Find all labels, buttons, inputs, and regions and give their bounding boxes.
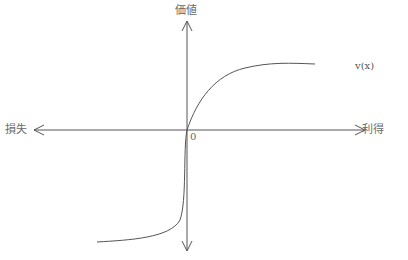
- diagram-svg: [0, 0, 408, 260]
- value-function-diagram: 価値 損失 利得 v(x) 0: [0, 0, 408, 260]
- curve-label: v(x): [355, 61, 374, 71]
- y-axis-label: 価値: [175, 5, 197, 16]
- x-axis-negative-label: 損失: [5, 124, 27, 135]
- gain-curve: [187, 63, 315, 130]
- x-axis-positive-label: 利得: [362, 124, 384, 135]
- loss-curve: [97, 130, 187, 242]
- origin-label: 0: [190, 132, 196, 142]
- x-axis: [34, 125, 365, 135]
